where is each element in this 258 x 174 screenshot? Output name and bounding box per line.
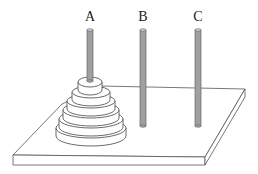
peg-label-c: C	[193, 9, 202, 24]
board	[13, 86, 245, 165]
peg-b	[140, 29, 146, 128]
peg-label-b: B	[138, 9, 147, 24]
peg-a	[87, 29, 93, 83]
peg-label-a: A	[85, 9, 96, 24]
tower-of-hanoi-diagram: A B C	[0, 0, 258, 174]
peg-c	[195, 29, 201, 128]
